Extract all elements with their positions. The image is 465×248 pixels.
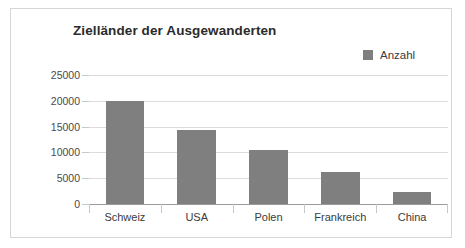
ytick-label-25000: 25000 [27, 69, 89, 81]
legend-label-anzahl: Anzahl [380, 49, 415, 61]
bar-usa[interactable] [177, 130, 216, 204]
bar-cell-china [376, 75, 448, 204]
bar-cell-schweiz [89, 75, 161, 204]
ytick-label-20000: 20000 [27, 95, 89, 107]
bar-series-anzahl [89, 75, 448, 204]
chart-legend: Anzahl [363, 49, 415, 61]
x-axis-labels: Schweiz USA Polen Frankreich China [89, 211, 448, 223]
bar-schweiz[interactable] [106, 101, 145, 204]
ytick-label-15000: 15000 [27, 121, 89, 133]
xlabel-schweiz: Schweiz [89, 211, 161, 223]
plot-area: 25000 20000 15000 10000 5000 0 [89, 75, 448, 204]
bar-polen[interactable] [249, 150, 288, 204]
chart-title: Zielländer der Ausgewanderten [73, 23, 276, 38]
bar-cell-frankreich [304, 75, 376, 204]
bar-frankreich[interactable] [321, 172, 360, 205]
ytick-label-5000: 5000 [27, 172, 89, 184]
bar-cell-polen [233, 75, 305, 204]
bar-china[interactable] [393, 192, 432, 204]
legend-swatch-anzahl [363, 50, 373, 60]
xlabel-usa: USA [161, 211, 233, 223]
x-axis-line [89, 204, 448, 205]
xlabel-china: China [376, 211, 448, 223]
ytick-label-10000: 10000 [27, 146, 89, 158]
ytick-label-0: 0 [27, 198, 89, 210]
chart-figure: Zielländer der Ausgewanderten Anzahl 250… [10, 8, 452, 238]
bar-cell-usa [161, 75, 233, 204]
xlabel-polen: Polen [233, 211, 305, 223]
xlabel-frankreich: Frankreich [304, 211, 376, 223]
